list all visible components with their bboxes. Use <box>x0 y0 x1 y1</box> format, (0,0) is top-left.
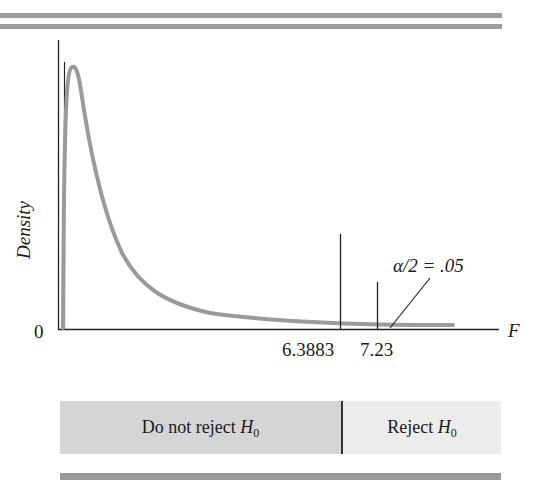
alpha-leader-line <box>390 278 430 328</box>
alpha-annotation-text: α/2 = .05 <box>393 255 464 276</box>
y-origin-label: 0 <box>34 322 44 341</box>
x-axis-label: F <box>508 321 520 340</box>
region-do-not-reject: Do not reject H0 <box>60 401 343 454</box>
region-do-not-reject-label: Do not reject H0 <box>142 417 259 438</box>
region-reject: Reject H0 <box>343 401 501 454</box>
critical-value-label-2: 7.23 <box>360 340 393 359</box>
region-reject-label: Reject H0 <box>387 417 456 438</box>
bottom-rule <box>60 473 501 480</box>
decision-regions-bar: Do not reject H0 Reject H0 <box>60 401 501 454</box>
y-axis-label: Density <box>13 201 35 259</box>
critical-value-label-1: 6.3883 <box>282 340 334 359</box>
density-curve <box>63 67 453 328</box>
alpha-annotation: α/2 = .05 <box>393 256 464 275</box>
